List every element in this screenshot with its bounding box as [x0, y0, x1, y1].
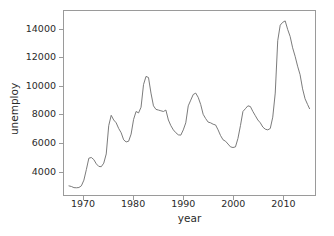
y-tick-mark-14000 [59, 29, 63, 30]
y-tick-mark-6000 [59, 143, 63, 144]
y-tick-label-10000: 10000 [26, 81, 56, 91]
y-tick-label-14000: 14000 [26, 24, 56, 34]
x-tick-label-1980: 1980 [121, 199, 145, 209]
y-tick-mark-4000 [59, 172, 63, 173]
matplotlib-figure: 400060008000100001200014000 year unemplo… [0, 0, 334, 236]
y-tick-label-4000: 4000 [32, 167, 56, 177]
x-tick-mark-2000 [233, 196, 234, 200]
x-tick-mark-2010 [283, 196, 284, 200]
y-tick-label-8000: 8000 [32, 109, 56, 119]
y-tick-label-12000: 12000 [26, 52, 56, 62]
x-tick-label-1970: 1970 [71, 199, 95, 209]
y-axis-label: unemploy [8, 64, 20, 154]
unemploy-line-series [64, 11, 315, 195]
y-tick-mark-10000 [59, 86, 63, 87]
x-tick-label-2000: 2000 [221, 199, 245, 209]
x-tick-label-1990: 1990 [171, 199, 195, 209]
x-axis-label: year [63, 212, 316, 224]
x-tick-label-2010: 2010 [271, 199, 295, 209]
y-tick-mark-12000 [59, 57, 63, 58]
y-tick-mark-8000 [59, 114, 63, 115]
x-tick-mark-1990 [183, 196, 184, 200]
y-tick-label-6000: 6000 [32, 138, 56, 148]
x-tick-mark-1980 [133, 196, 134, 200]
x-tick-mark-1970 [83, 196, 84, 200]
plot-area [63, 10, 316, 196]
series-polyline [69, 21, 310, 188]
